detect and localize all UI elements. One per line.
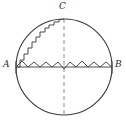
vertex-label-a: A	[3, 60, 10, 69]
figure-canvas	[0, 0, 126, 124]
staircase-path-a-to-c	[16, 19, 64, 67]
geometry-figure: A B C	[0, 0, 126, 124]
vertex-label-c: C	[59, 2, 66, 11]
vertex-label-b: B	[115, 60, 122, 69]
